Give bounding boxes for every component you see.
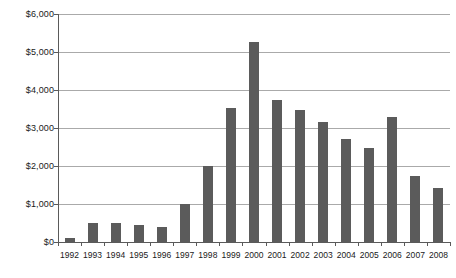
y-axis-tick-label: $4,000 bbox=[0, 86, 54, 95]
x-axis-ticks bbox=[58, 242, 450, 247]
bar-2004 bbox=[341, 139, 351, 242]
bar-2001 bbox=[272, 100, 282, 243]
x-axis-tick-mark bbox=[266, 242, 267, 246]
bar-series bbox=[58, 14, 450, 242]
x-axis-tick-mark bbox=[289, 242, 290, 246]
x-axis-tick-mark bbox=[450, 242, 451, 246]
x-axis-tick-mark bbox=[219, 242, 220, 246]
x-axis-tick-mark bbox=[173, 242, 174, 246]
y-axis-tick-label: $1,000 bbox=[0, 200, 54, 209]
bar-1996 bbox=[157, 227, 167, 242]
y-axis-tick-label: $0 bbox=[0, 238, 54, 247]
bar-1993 bbox=[88, 223, 98, 242]
y-axis-tick-label: $2,000 bbox=[0, 162, 54, 171]
x-axis-tick-mark bbox=[127, 242, 128, 246]
bar-2008 bbox=[433, 188, 443, 242]
x-axis-tick-mark bbox=[150, 242, 151, 246]
bar-1999 bbox=[226, 108, 236, 242]
y-axis-labels: $0$1,000$2,000$3,000$4,000$5,000$6,000 bbox=[0, 0, 54, 278]
bar-2000 bbox=[249, 42, 259, 242]
x-axis-tick-mark bbox=[196, 242, 197, 246]
x-axis-tick-mark bbox=[81, 242, 82, 246]
bar-1997 bbox=[180, 204, 190, 242]
x-axis-tick-mark bbox=[358, 242, 359, 246]
bar-2005 bbox=[364, 148, 374, 242]
x-axis-tick-mark bbox=[242, 242, 243, 246]
y-axis-tick-label: $3,000 bbox=[0, 124, 54, 133]
x-axis-tick-mark bbox=[427, 242, 428, 246]
x-axis-tick-mark bbox=[404, 242, 405, 246]
bar-1998 bbox=[203, 166, 213, 242]
y-axis-tick-label: $6,000 bbox=[0, 10, 54, 19]
bar-2006 bbox=[387, 117, 397, 242]
x-axis-tick-mark bbox=[312, 242, 313, 246]
bar-1995 bbox=[134, 225, 144, 242]
x-axis-tick-mark bbox=[381, 242, 382, 246]
y-axis-tick-label: $5,000 bbox=[0, 48, 54, 57]
x-axis-tick-label-2008: 2008 bbox=[425, 250, 451, 260]
bar-2007 bbox=[410, 176, 420, 242]
x-axis-labels: 1992199319941995199619971998199920002001… bbox=[58, 250, 450, 264]
bar-2002 bbox=[295, 110, 305, 242]
x-axis-tick-mark bbox=[335, 242, 336, 246]
x-axis-tick-mark bbox=[104, 242, 105, 246]
bar-2003 bbox=[318, 122, 328, 242]
x-axis-tick-mark bbox=[58, 242, 59, 246]
bar-1994 bbox=[111, 223, 121, 242]
bar-chart: $0$1,000$2,000$3,000$4,000$5,000$6,000 1… bbox=[0, 0, 456, 278]
